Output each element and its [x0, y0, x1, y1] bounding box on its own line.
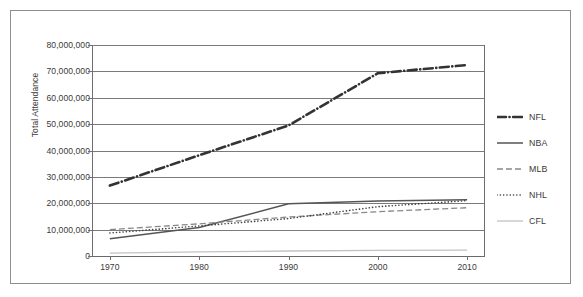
y-tick-label: 50,000,000 [4, 119, 90, 129]
gridline [92, 151, 485, 152]
y-tick-label: 70,000,000 [4, 66, 90, 76]
gridline [92, 230, 485, 231]
y-axis-tick-labels: 010,000,00020,000,00030,000,00040,000,00… [0, 0, 90, 297]
y-tick-label: 80,000,000 [4, 40, 90, 50]
plot-axis-right [484, 45, 485, 256]
x-tick-label: 2000 [348, 262, 408, 272]
plot-axis-left [92, 45, 93, 256]
x-tick-label: 1980 [169, 262, 229, 272]
x-tickmark [110, 256, 111, 260]
legend-swatch-icon [497, 189, 523, 201]
gridline [92, 203, 485, 204]
y-tick-label: 40,000,000 [4, 146, 90, 156]
legend-item-nba[interactable]: NBA [497, 130, 567, 156]
x-tick-label: 1970 [80, 262, 140, 272]
legend-swatch-icon [497, 111, 523, 123]
gridline [92, 45, 485, 46]
x-tickmark [289, 256, 290, 260]
legend-label: MLB [523, 164, 547, 174]
y-tick-label: 30,000,000 [4, 172, 90, 182]
x-tickmark [467, 256, 468, 260]
legend-item-cfl[interactable]: CFL [497, 208, 567, 234]
legend-item-nfl[interactable]: NFL [497, 104, 567, 130]
legend-item-nhl[interactable]: NHL [497, 182, 567, 208]
gridline [92, 177, 485, 178]
y-tick-label: 60,000,000 [4, 93, 90, 103]
legend-swatch-icon [497, 215, 523, 227]
legend-label: NHL [523, 190, 547, 200]
x-tickmark [378, 256, 379, 260]
legend-label: CFL [523, 216, 546, 226]
legend-swatch-icon [497, 137, 523, 149]
legend: NFLNBAMLBNHLCFL [497, 104, 567, 234]
chart-figure: Total Attendance 010,000,00020,000,00030… [0, 0, 583, 297]
y-tick-label: 20,000,000 [4, 198, 90, 208]
x-tick-label: 2010 [437, 262, 497, 272]
legend-item-mlb[interactable]: MLB [497, 156, 567, 182]
legend-label: NFL [523, 112, 546, 122]
legend-swatch-icon [497, 163, 523, 175]
x-tick-label: 1990 [259, 262, 319, 272]
y-tickmark [88, 256, 92, 257]
figure-border [10, 10, 571, 284]
y-tick-label: 10,000,000 [4, 225, 90, 235]
x-tickmark [199, 256, 200, 260]
y-tick-label: 0 [4, 251, 90, 261]
legend-label: NBA [523, 138, 547, 148]
gridline [92, 98, 485, 99]
gridline [92, 71, 485, 72]
gridline [92, 124, 485, 125]
